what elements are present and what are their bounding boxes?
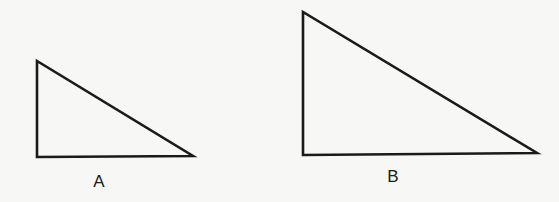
triangle-a-label: A: [93, 173, 104, 190]
triangle-b: [303, 12, 537, 155]
diagram-canvas: [0, 0, 559, 202]
triangle-a: [37, 61, 193, 157]
triangle-b-label: B: [387, 168, 398, 185]
